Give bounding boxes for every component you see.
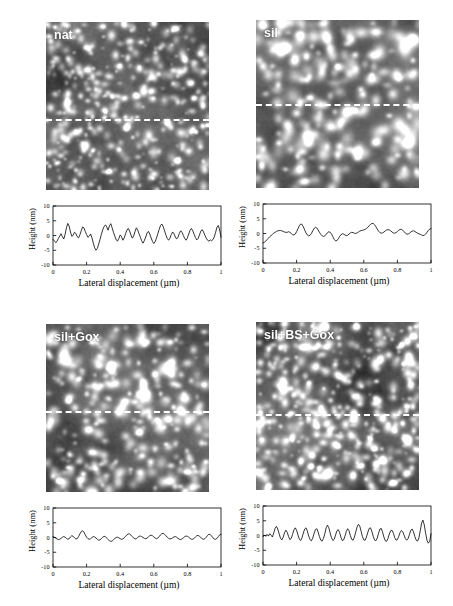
svg-text:0.2: 0.2 <box>293 266 301 273</box>
svg-text:-10: -10 <box>41 563 49 570</box>
svg-text:-5: -5 <box>44 246 49 253</box>
afm-canvas-sil-gox <box>46 324 209 492</box>
profile-line-nat <box>46 119 209 121</box>
svg-text:0: 0 <box>261 568 264 575</box>
x-axis-label-sil-bs-gox: Lateral displacement (µm) <box>244 578 434 588</box>
svg-text:0: 0 <box>46 232 49 239</box>
y-axis-label-sil-bs-gox: Height (nm) <box>237 493 247 565</box>
y-axis-label-nat: Height (nm) <box>27 193 37 265</box>
svg-text:0.8: 0.8 <box>184 570 192 577</box>
svg-text:5: 5 <box>46 217 49 224</box>
height-profile-plot-sil-gox: -10-5051000.20.40.60.81 Height (nm) Late… <box>20 496 230 596</box>
svg-text:5: 5 <box>46 519 49 526</box>
svg-text:0: 0 <box>256 230 259 237</box>
svg-text:10: 10 <box>253 502 259 509</box>
svg-text:-5: -5 <box>44 548 49 555</box>
svg-text:1: 1 <box>219 570 222 577</box>
afm-canvas-nat <box>46 22 209 190</box>
panel-sil-gox: sil+Gox -10-5051000.20.40.60.81 Height (… <box>20 312 230 602</box>
x-axis-label-nat: Lateral displacement (µm) <box>34 278 224 288</box>
panel-sil-bs-gox: sil+BS+Gox -10-5051000.20.40.60.81 Heigh… <box>230 310 440 600</box>
svg-text:-10: -10 <box>251 259 259 266</box>
svg-text:0.8: 0.8 <box>394 568 402 575</box>
svg-text:5: 5 <box>256 517 259 524</box>
height-profile-plot-sil: -10-5051000.20.40.60.81 Height (nm) Late… <box>230 192 440 292</box>
svg-text:-10: -10 <box>251 561 259 568</box>
svg-text:1: 1 <box>429 266 432 273</box>
svg-text:0: 0 <box>256 532 259 539</box>
x-axis-label-sil-gox: Lateral displacement (µm) <box>34 580 224 590</box>
height-profile-plot-sil-bs-gox: -10-5051000.20.40.60.81 Height (nm) Late… <box>230 494 440 594</box>
afm-image-nat: nat <box>46 22 209 190</box>
afm-image-sil-bs-gox: sil+BS+Gox <box>256 322 419 490</box>
svg-text:0.6: 0.6 <box>360 568 368 575</box>
svg-text:0: 0 <box>51 268 54 275</box>
panel-sil: sil -10-5051000.20.40.60.81 Height (nm) … <box>230 8 440 298</box>
svg-text:0.6: 0.6 <box>150 570 158 577</box>
panel-label-sil: sil <box>264 26 278 40</box>
panel-label-sil-gox: sil+Gox <box>54 330 100 344</box>
svg-text:-10: -10 <box>41 261 49 268</box>
afm-image-sil: sil <box>256 20 419 188</box>
svg-text:1: 1 <box>429 568 432 575</box>
svg-text:1: 1 <box>219 268 222 275</box>
svg-text:0.8: 0.8 <box>184 268 192 275</box>
svg-text:10: 10 <box>43 504 49 511</box>
afm-image-sil-gox: sil+Gox <box>46 324 209 492</box>
svg-text:0: 0 <box>51 570 54 577</box>
svg-text:0: 0 <box>46 534 49 541</box>
svg-text:0.2: 0.2 <box>83 268 91 275</box>
svg-text:5: 5 <box>256 215 259 222</box>
svg-text:0: 0 <box>261 266 264 273</box>
svg-text:-5: -5 <box>254 244 259 251</box>
profile-line-sil-gox <box>46 411 209 413</box>
afm-figure: nat -10-5051000.20.40.60.81 Height (nm) … <box>0 0 453 606</box>
svg-text:0.4: 0.4 <box>116 268 124 275</box>
svg-text:-5: -5 <box>254 546 259 553</box>
profile-line-sil <box>256 104 419 106</box>
svg-text:10: 10 <box>43 202 49 209</box>
svg-text:0.8: 0.8 <box>394 266 402 273</box>
svg-text:0.4: 0.4 <box>326 568 334 575</box>
svg-text:0.4: 0.4 <box>326 266 334 273</box>
svg-text:0.6: 0.6 <box>150 268 158 275</box>
y-axis-label-sil-gox: Height (nm) <box>27 495 37 567</box>
svg-text:0.6: 0.6 <box>360 266 368 273</box>
profile-line-sil-bs-gox <box>256 414 419 416</box>
panel-nat: nat -10-5051000.20.40.60.81 Height (nm) … <box>20 10 230 300</box>
svg-text:0.2: 0.2 <box>83 570 91 577</box>
afm-canvas-sil-bs-gox <box>256 322 419 490</box>
height-profile-plot-nat: -10-5051000.20.40.60.81 Height (nm) Late… <box>20 194 230 294</box>
svg-text:10: 10 <box>253 200 259 207</box>
x-axis-label-sil: Lateral displacement (µm) <box>244 276 434 286</box>
panel-label-nat: nat <box>54 28 73 42</box>
y-axis-label-sil: Height (nm) <box>237 191 247 263</box>
svg-text:0.2: 0.2 <box>293 568 301 575</box>
svg-text:0.4: 0.4 <box>116 570 124 577</box>
panel-label-sil-bs-gox: sil+BS+Gox <box>264 328 334 342</box>
